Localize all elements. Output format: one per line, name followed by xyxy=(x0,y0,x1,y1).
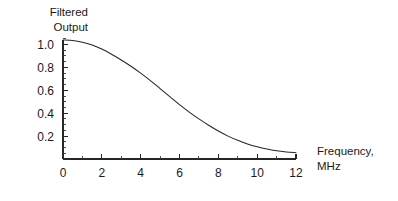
x-axis-tick-label: 12 xyxy=(289,166,303,180)
y-axis-title-line1: Filtered xyxy=(50,6,88,18)
x-axis-tick-label: 8 xyxy=(215,166,222,180)
x-axis-title-line2: MHz xyxy=(317,160,341,172)
y-axis-tick-label: 0.8 xyxy=(37,61,54,75)
y-axis-tick-label: 1.0 xyxy=(37,38,54,52)
x-axis-tick-label: 0 xyxy=(60,166,67,180)
x-axis-tick-label: 10 xyxy=(250,166,264,180)
x-axis-title-line1: Frequency, xyxy=(317,145,374,157)
y-axis-tick-label: 0.4 xyxy=(37,107,54,121)
x-axis-tick-label: 6 xyxy=(176,166,183,180)
y-axis-title-line2: Output xyxy=(53,21,88,33)
x-axis-tick-label: 2 xyxy=(98,166,105,180)
y-axis-tick-label: 0.2 xyxy=(37,130,54,144)
x-axis-tick-label: 4 xyxy=(137,166,144,180)
y-axis-tick-label: 0.6 xyxy=(37,84,54,98)
filtered-output-line-chart: 0.20.40.60.81.0 024681012 Filtered Outpu… xyxy=(0,0,398,201)
chart-container: 0.20.40.60.81.0 024681012 Filtered Outpu… xyxy=(0,0,398,201)
